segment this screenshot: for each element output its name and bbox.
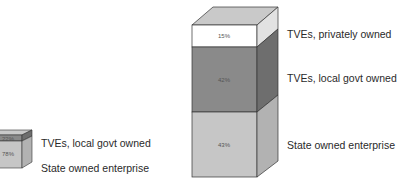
right-pct-local-govt: 42%	[218, 77, 231, 83]
right-stacked-column: 15% 42% 43%	[192, 7, 278, 177]
right-label-private: TVEs, privately owned	[287, 28, 391, 40]
right-label-local-govt: TVEs, local govt owned	[287, 72, 397, 84]
right-pct-state: 43%	[218, 142, 231, 148]
left-stacked-column: 22% 78%	[0, 130, 32, 168]
right-pct-private: 15%	[218, 33, 231, 39]
left-label-local-govt: TVEs, local govt owned	[41, 137, 151, 149]
right-label-state: State owned enterprise	[287, 139, 395, 151]
left-segment-state-side	[22, 136, 32, 168]
left-pct-state: 78%	[2, 151, 15, 157]
left-pct-local-govt: 22%	[2, 136, 15, 142]
left-label-state: State owned enterprise	[41, 162, 149, 174]
